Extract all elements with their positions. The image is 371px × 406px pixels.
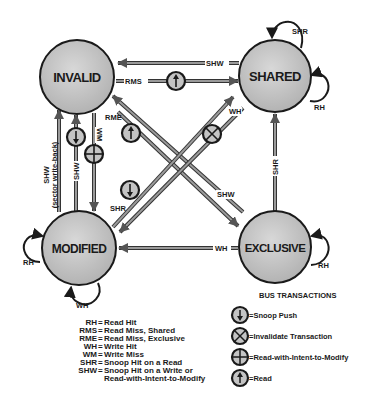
svg-text:=Read: =Read: [249, 374, 272, 383]
label-modified-to-shared: SHR: [110, 204, 126, 213]
state-shared: SHARED: [239, 40, 311, 112]
snoop-push-icon: [121, 181, 139, 199]
state-modified-label: MODIFIED: [52, 242, 107, 256]
read-icon: [122, 124, 140, 142]
state-invalid: INVALID: [40, 40, 114, 114]
label-writeback-sub: (sector write-back): [50, 141, 59, 208]
label-modified-self-rh: RH: [23, 258, 34, 267]
label-shared-to-modified: WH: [229, 107, 242, 116]
read-icon: [167, 72, 185, 90]
label-exclusive-to-modified: WH: [215, 244, 228, 253]
bus-legend-title: BUS TRANSACTIONS: [259, 291, 337, 300]
label-modified-self-wh: WH: [76, 301, 89, 310]
state-exclusive-label: EXCLUSIVE: [245, 242, 307, 254]
label-invalid-to-exclusive: RME: [105, 113, 122, 122]
label-invalid-to-modified: WM: [95, 128, 104, 141]
label-shared-self-rh: RH: [314, 103, 325, 112]
mesi-diagram: INVALID SHARED MODIFIED EXCLUSIVE: [0, 0, 371, 406]
label-modified-to-invalid: SHW: [72, 162, 81, 180]
svg-text:=: =: [98, 366, 103, 375]
label-exclusive-to-invalid: SHW: [217, 190, 235, 199]
label-exclusive-self-rh: RH: [318, 261, 329, 270]
state-modified: MODIFIED: [42, 211, 116, 285]
label-shared-to-invalid: SHW: [206, 59, 224, 68]
rwitm-icon: [232, 349, 248, 365]
label-shared-self-shr: SHR: [292, 27, 308, 36]
snoop-push-icon: [67, 128, 85, 146]
invalidate-icon: [232, 328, 248, 344]
state-shared-label: SHARED: [249, 69, 301, 84]
state-invalid-label: INVALID: [53, 70, 101, 85]
abbreviation-legend: RH = Read Hit RMS = Read Miss, Shared RM…: [78, 318, 206, 383]
state-exclusive: EXCLUSIVE: [239, 211, 311, 283]
svg-text:=Snoop Push: =Snoop Push: [249, 311, 298, 320]
label-exclusive-to-shared: SHR: [271, 159, 280, 175]
loop-shared-rh: [310, 74, 328, 101]
svg-text:SHW: SHW: [78, 366, 97, 375]
bus-transactions-legend: BUS TRANSACTIONS =Snoop Push =Invalidate…: [232, 291, 349, 386]
rwitm-icon: [85, 145, 103, 163]
svg-text:=Invalidate Transaction: =Invalidate Transaction: [249, 332, 333, 341]
snoop-push-icon: [232, 307, 248, 323]
read-icon: [232, 370, 248, 386]
arrow-modified-to-shared-shr: [113, 97, 233, 227]
label-invalid-to-shared: RMS: [125, 77, 142, 86]
invalidate-icon: [203, 125, 221, 143]
svg-text:Read-with-Intent-to-Modify: Read-with-Intent-to-Modify: [104, 374, 206, 383]
svg-text:=Read-with-Intent-to-Modify: =Read-with-Intent-to-Modify: [249, 353, 349, 362]
